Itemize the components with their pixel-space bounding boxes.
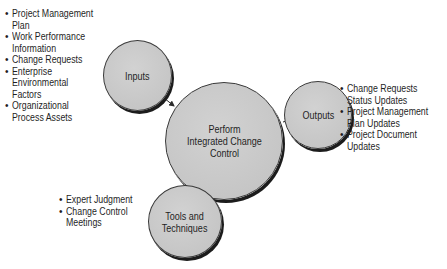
tools-node: Tools and Techniques	[148, 185, 222, 258]
process-node: Perform Integrated Change Control	[165, 82, 283, 200]
arrow-inputs-to-process	[164, 98, 174, 106]
tools-label: Tools and Techniques	[162, 210, 208, 234]
list-item: Project Document Updates	[340, 129, 447, 152]
list-item: Organizational Process Assets	[5, 100, 125, 123]
list-item: Project Management Plan Updates	[340, 106, 447, 129]
itto-diagram: Project Management Plan Work Performance…	[0, 0, 447, 269]
list-item: Project Management Plan	[5, 8, 125, 31]
outputs-label: Outputs	[302, 109, 334, 121]
list-item: Change Requests Status Updates	[340, 83, 447, 106]
inputs-label: Inputs	[125, 70, 150, 82]
process-label: Perform Integrated Change Control	[187, 123, 262, 159]
list-item: Work Performance Information	[5, 31, 125, 54]
outputs-list: Change Requests Status Updates Project M…	[340, 83, 447, 152]
tools-list: Expert Judgment Change Control Meetings	[59, 194, 149, 229]
inputs-node: Inputs	[103, 40, 172, 111]
list-item: Expert Judgment	[59, 194, 149, 206]
list-item: Change Control Meetings	[59, 206, 149, 229]
